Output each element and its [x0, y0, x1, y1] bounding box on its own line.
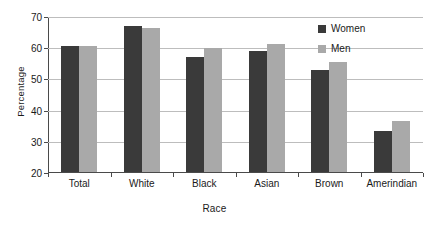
x-tick-label-white: White — [129, 178, 155, 189]
y-tick-mark — [44, 111, 48, 112]
gridline — [48, 111, 423, 112]
bar-amerindian-men — [392, 121, 410, 172]
bar-white-women — [124, 26, 142, 172]
x-tick-mark — [298, 173, 299, 177]
bar-white-men — [142, 28, 160, 172]
x-tick-label-black: Black — [192, 178, 216, 189]
y-tick-label: 40 — [2, 105, 42, 116]
bar-black-women — [186, 57, 204, 172]
gridline — [48, 79, 423, 80]
x-tick-label-brown: Brown — [315, 178, 343, 189]
y-tick-label: 70 — [2, 12, 42, 23]
bar-amerindian-women — [374, 131, 392, 172]
y-tick-mark — [44, 142, 48, 143]
y-axis-line — [48, 17, 49, 173]
legend-swatch-men-icon — [318, 45, 326, 53]
legend-item-women: Women — [318, 20, 365, 37]
y-tick-label: 20 — [2, 168, 42, 179]
gridline — [48, 17, 423, 18]
x-tick-mark — [48, 173, 49, 177]
gridline — [48, 142, 423, 143]
bar-brown-women — [311, 70, 329, 172]
x-tick-mark — [361, 173, 362, 177]
y-tick-mark — [44, 79, 48, 80]
y-tick-mark — [44, 48, 48, 49]
legend-label: Women — [331, 24, 365, 34]
y-tick-label: 50 — [2, 74, 42, 85]
chart-legend: WomenMen — [318, 20, 365, 60]
x-tick-label-asian: Asian — [254, 178, 279, 189]
x-tick-label-total: Total — [69, 178, 90, 189]
bar-total-men — [79, 46, 97, 172]
x-tick-mark — [423, 173, 424, 177]
bar-chart: Percentage 203040506070 Race WomenMen To… — [0, 0, 429, 228]
x-axis-title: Race — [0, 203, 429, 214]
bar-asian-men — [267, 44, 285, 172]
y-tick-label: 60 — [2, 43, 42, 54]
bar-black-men — [204, 48, 222, 172]
legend-swatch-women-icon — [318, 25, 326, 33]
y-tick-label: 30 — [2, 136, 42, 147]
legend-item-men: Men — [318, 40, 365, 57]
x-tick-label-amerindian: Amerindian — [366, 178, 417, 189]
plot-area: 203040506070 — [48, 17, 423, 173]
bar-total-women — [61, 46, 79, 172]
x-tick-mark — [111, 173, 112, 177]
y-tick-mark — [44, 17, 48, 18]
legend-label: Men — [331, 44, 350, 54]
bar-brown-men — [329, 62, 347, 172]
gridline — [48, 48, 423, 49]
x-tick-mark — [173, 173, 174, 177]
x-tick-mark — [236, 173, 237, 177]
bar-asian-women — [249, 51, 267, 172]
